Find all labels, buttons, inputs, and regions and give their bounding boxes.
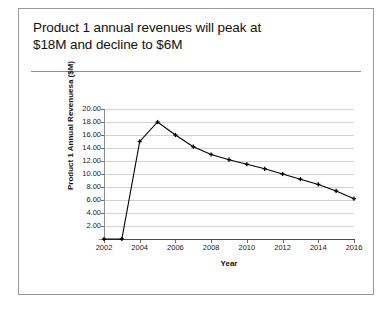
data-point-marker <box>245 162 249 166</box>
data-point-marker <box>102 237 106 241</box>
y-axis-tick-labels: -2.004.006.008.0010.0012.0014.0016.0018.… <box>57 83 101 253</box>
x-axis-tick-mark <box>318 240 319 243</box>
x-axis-tick-label: 2012 <box>263 243 303 252</box>
slide-title-line-2: $18M and decline to $6M <box>33 36 353 53</box>
x-axis-tick-mark <box>247 240 248 243</box>
data-point-marker <box>209 152 213 156</box>
x-axis-tick-label: 2016 <box>334 243 374 252</box>
x-axis-tick-mark <box>211 240 212 243</box>
y-axis-title: Product 1 Annual Revenuesa ($M) <box>66 51 75 201</box>
y-axis-tick-label: - <box>61 235 101 243</box>
x-axis-tick-label: 2006 <box>155 243 195 252</box>
x-axis-tick-mark <box>140 240 141 243</box>
data-point-marker <box>263 167 267 171</box>
slide-title-line-1: Product 1 annual revenues will peak at <box>33 19 353 36</box>
x-axis-tick-label: 2014 <box>298 243 338 252</box>
x-axis-tick-label: 2002 <box>84 243 124 252</box>
x-axis-tick-label: 2008 <box>191 243 231 252</box>
data-point-marker <box>227 158 231 162</box>
y-axis-tick-label: 2.00 <box>61 222 101 230</box>
data-point-marker <box>352 197 356 201</box>
x-axis-tick-mark <box>354 240 355 243</box>
x-axis-tick-mark <box>283 240 284 243</box>
x-axis-tick-label: 2010 <box>227 243 267 252</box>
x-axis-tick-mark <box>175 240 176 243</box>
data-point-marker <box>298 177 302 181</box>
data-point-marker <box>316 182 320 186</box>
title-divider <box>31 71 361 72</box>
slide-title: Product 1 annual revenues will peak at $… <box>33 19 353 53</box>
x-axis-title: Year <box>104 259 354 268</box>
data-point-marker <box>334 189 338 193</box>
x-axis-tick-label: 2004 <box>120 243 160 252</box>
data-point-marker <box>120 237 124 241</box>
series-plot-area <box>104 109 354 239</box>
slide-canvas: Product 1 annual revenues will peak at $… <box>18 8 374 295</box>
y-axis-tick-label: 4.00 <box>61 209 101 217</box>
series-markers <box>102 120 356 241</box>
series-line-product-1 <box>104 122 354 239</box>
data-point-marker <box>280 172 284 176</box>
line-chart: -2.004.006.008.0010.0012.0014.0016.0018.… <box>41 83 371 278</box>
